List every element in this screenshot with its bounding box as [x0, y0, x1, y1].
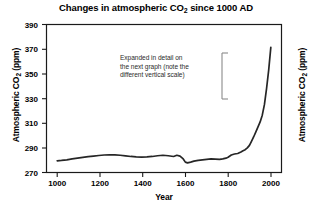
y-axis-title-right-before: Atmospheric CO	[297, 77, 307, 143]
plot-frame	[47, 25, 282, 173]
annotation-line-1: Expanded in detail on	[120, 54, 216, 63]
y-axis-title-right: Atmospheric CO2 (ppm)	[297, 25, 307, 165]
y-axis-title-left: Atmospheric CO2 (ppm)	[11, 25, 21, 165]
xtick-label-1000: 1000	[48, 179, 66, 188]
x-axis-title: Year	[46, 192, 282, 202]
xtick-label-2000: 2000	[262, 179, 280, 188]
y-axis-title-left-subscript: 2	[15, 73, 22, 77]
expanded-detail-annotation: Expanded in detail on the next graph (no…	[120, 54, 216, 80]
annotation-line-3: different vertical scale)	[120, 71, 216, 80]
xtick-label-1400: 1400	[134, 179, 152, 188]
y-axis-title-right-subscript: 2	[301, 73, 308, 77]
y-axis-ticks	[42, 25, 47, 173]
xtick-label-1200: 1200	[91, 179, 109, 188]
ytick-label-270: 270	[10, 168, 38, 177]
xtick-label-1800: 1800	[219, 179, 237, 188]
annotation-line-2: the next graph (note the	[120, 63, 216, 72]
co2-chart-figure: Changes in atmospheric CO2 since 1000 AD	[0, 0, 312, 212]
y-axis-title-left-before: Atmospheric CO	[11, 77, 21, 143]
y-axis-title-left-after: (ppm)	[11, 48, 21, 73]
xtick-label-1600: 1600	[177, 179, 195, 188]
x-axis-ticks	[57, 173, 271, 178]
y-axis-title-right-after: (ppm)	[297, 48, 307, 73]
